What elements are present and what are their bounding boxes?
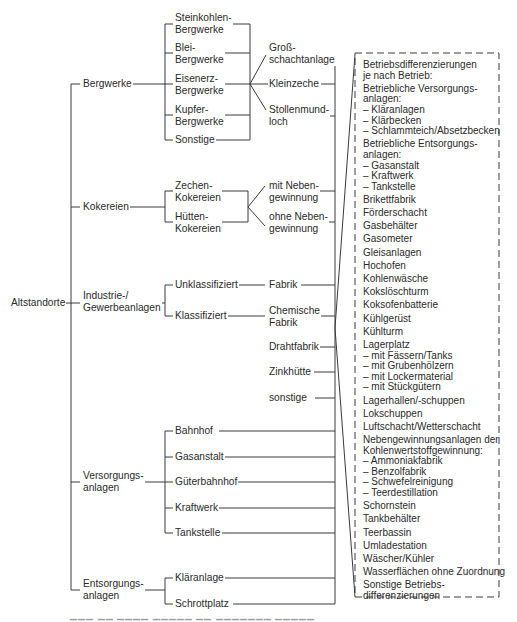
node-stollenmundloch: Stollenmund-loch: [268, 104, 330, 128]
figure-caption-truncated: ▁▁▁ ▁▁ ▁▁▁▁ ▁▁▁▁▁ ▁▁ ▁▁▁▁▁▁▁ ▁▁▁▁▁: [70, 610, 315, 620]
node-zechen-kokereien: Zechen-Kokereien: [174, 180, 222, 204]
node-mit-nebengewinnung: mit Neben-gewinnung: [268, 180, 320, 204]
node-kraftwerk: Kraftwerk: [174, 502, 219, 514]
node-eisenerz-bergwerke: Eisenerz-Bergwerke: [174, 73, 225, 97]
node-schrottplatz: Schrottplatz: [174, 598, 230, 610]
betriebsdifferenzierungen-list: Betriebsdifferenzierungenje nach Betrieb…: [363, 60, 505, 604]
node-versorgungsanlagen: Versorgungs- anlagen: [82, 470, 145, 494]
node-kupfer-bergwerke: Kupfer-Bergwerke: [174, 104, 225, 128]
node-kleinzeche: Kleinzeche: [268, 78, 320, 90]
node-klaeranlage: Kläranlage: [174, 572, 225, 584]
node-entsorgungsanlagen: Entsorgungs- anlagen: [82, 578, 145, 602]
node-gueterbahnhof: Güterbahnhof: [174, 476, 238, 488]
node-fabrik: Fabrik: [268, 279, 298, 291]
box-list-item: anlagen:: [363, 150, 505, 161]
box-list-item: Kokslöschturm: [363, 287, 505, 298]
box-list-item: differenzierungen: [363, 591, 505, 602]
box-list-item: Gasbehälter: [363, 221, 505, 232]
box-list-item: Umladestation: [363, 541, 505, 552]
box-list-item: – Kläranlagen: [363, 105, 505, 116]
node-steinkohlen-bergwerke: Steinkohlen-Bergwerke: [174, 12, 233, 36]
node-kokereien: Kokereien: [82, 201, 130, 213]
node-zinkhuette: Zinkhütte: [268, 366, 312, 378]
box-list-item: Wäscher/Kühler: [363, 554, 505, 565]
box-list-item: – mit Stückgütern: [363, 382, 505, 393]
box-list-item: Lagerhallen/-schuppen: [363, 396, 505, 407]
node-ohne-nebengewinnung: ohne Neben-gewinnung: [268, 211, 329, 235]
box-list-item: Lagerplatz: [363, 340, 505, 351]
box-list-item: Teerbassin: [363, 528, 505, 539]
box-list-item: – Tankstelle: [363, 182, 505, 193]
box-list-item: je nach Betrieb:: [363, 71, 505, 82]
node-gasanstalt: Gasanstalt: [174, 451, 225, 463]
box-list-item: Wasserflächen ohne Zuordnung: [363, 567, 505, 578]
node-drahtfabrik: Drahtfabrik: [268, 341, 320, 353]
box-list-item: Koksofenbatterie: [363, 300, 505, 311]
box-list-item: Lokschuppen: [363, 409, 505, 420]
node-sonstige-industrie: sonstige: [268, 392, 308, 404]
node-bergwerke: Bergwerke: [82, 78, 133, 90]
node-blei-bergwerke: Blei-Bergwerke: [174, 42, 225, 66]
node-chemische-fabrik: ChemischeFabrik: [268, 305, 321, 329]
node-huetten-kokereien: Hütten-Kokereien: [174, 211, 222, 235]
box-list-item: Hochofen: [363, 261, 505, 272]
box-list-item: Betriebsdifferenzierungen: [363, 60, 505, 71]
node-unklassifiziert: Unklassifiziert: [174, 279, 239, 291]
node-industrie: Industrie-/ Gewerbeanlagen: [82, 290, 162, 314]
betriebsdifferenzierungen-box: Betriebsdifferenzierungenje nach Betrieb…: [355, 53, 499, 597]
box-list-item: Brikettfabrik: [363, 195, 505, 206]
node-sonstige-bergwerke: Sonstige: [174, 134, 216, 146]
box-list-item: Luftschacht/Wetterschacht: [363, 422, 505, 433]
node-tankstelle: Tankstelle: [174, 527, 221, 539]
node-grossschachtanlage: Groß-schachtanlage: [268, 42, 336, 66]
box-list-item: Schornstein: [363, 501, 505, 512]
box-list-item: Gasometer: [363, 234, 505, 245]
node-altstandorte: Altstandorte: [10, 297, 66, 309]
box-list-item: – Schlammteich/Absetzbecken: [363, 126, 505, 137]
node-klassifiziert: Klassifiziert: [174, 310, 228, 322]
box-list-item: Kühlgerüst: [363, 314, 505, 325]
box-list-item: Kühlturm: [363, 327, 505, 338]
box-list-item: Förderschacht: [363, 208, 505, 219]
box-list-item: Tankbehälter: [363, 514, 505, 525]
box-list-item: Kohlenwäsche: [363, 274, 505, 285]
node-bahnhof: Bahnhof: [174, 425, 214, 437]
box-list-item: Gleisanlagen: [363, 248, 505, 259]
box-list-item: – Teerdestillation: [363, 488, 505, 499]
